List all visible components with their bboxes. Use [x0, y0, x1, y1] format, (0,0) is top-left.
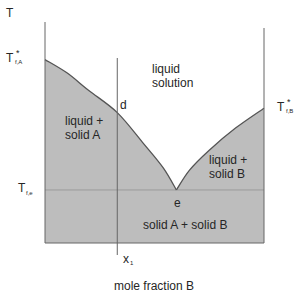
svg-text:liquid +: liquid +: [209, 153, 247, 167]
region-liquid-solid-a: liquid + solid A: [65, 114, 103, 142]
svg-text:*: *: [16, 48, 20, 58]
svg-text:f,A: f,A: [15, 59, 22, 65]
svg-text:x: x: [123, 252, 129, 266]
composition-x1-label: x 1: [123, 252, 134, 266]
point-d-label: d: [120, 98, 127, 112]
phase-diagram: T mole fraction B T * f,A T * f,B T f,e …: [0, 0, 308, 305]
y-axis-label: T: [6, 6, 14, 20]
svg-text:*: *: [287, 97, 291, 107]
svg-text:solution: solution: [152, 76, 193, 90]
svg-text:solid A + solid B: solid A + solid B: [143, 218, 227, 232]
svg-text:1: 1: [130, 260, 134, 266]
region-solid-a-solid-b: solid A + solid B: [143, 218, 227, 232]
svg-text:solid B: solid B: [209, 167, 245, 181]
eutectic-temperature-label: T f,e: [18, 181, 33, 196]
melting-point-a-label: T * f,A: [6, 48, 22, 65]
svg-text:liquid: liquid: [152, 62, 180, 76]
svg-text:T: T: [18, 181, 26, 195]
svg-text:T: T: [6, 51, 14, 65]
svg-text:solid A: solid A: [65, 128, 100, 142]
x-axis-label: mole fraction B: [114, 279, 194, 293]
svg-text:f,e: f,e: [26, 190, 33, 196]
svg-text:T: T: [277, 100, 285, 114]
region-liquid-solid-b: liquid + solid B: [209, 153, 247, 181]
svg-text:liquid +: liquid +: [65, 114, 103, 128]
eutectic-point-label: e: [174, 196, 181, 210]
region-liquid-solution: liquid solution: [152, 62, 193, 90]
svg-text:f,B: f,B: [286, 108, 293, 114]
melting-point-b-label: T * f,B: [277, 97, 293, 114]
